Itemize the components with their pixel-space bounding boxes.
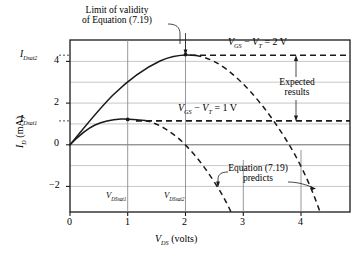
curve-label-vgs-vt-2v: VGS − VT = 2 V: [228, 37, 287, 48]
expected-line-1: Expected: [279, 77, 314, 87]
x-axis-title: VDS (volts): [155, 234, 197, 245]
y-title-unit: (mA): [14, 116, 25, 140]
x-tick-label-2: 2: [182, 217, 187, 228]
vdssat2-sub: DSsat2: [169, 196, 184, 202]
y-tick-label-0: 0: [54, 138, 59, 149]
limit-line-2: of Equation (7.19): [82, 15, 152, 25]
limit-line-1: Limit of validity: [86, 5, 149, 15]
vgs-2v-dash: −: [242, 36, 253, 47]
y-tick-label-2: 2: [54, 97, 59, 108]
y-marker-idsat2: IDsat2: [20, 50, 37, 60]
annotation-equation-predicts: Equation (7.19) predicts: [226, 164, 290, 184]
vgs-1v-dash: −: [192, 102, 203, 113]
x-tick-label-3: 3: [240, 217, 245, 228]
predicts-line-1: Equation (7.19): [228, 163, 288, 173]
vgs-1v-eq: = 1 V: [212, 102, 237, 113]
x-title-sub: DS: [161, 239, 169, 246]
x-title-unit: (volts): [169, 233, 198, 244]
y-title-sub: D: [20, 140, 27, 144]
curve-1v-dashed-parabola: [145, 121, 231, 213]
curve-2v-triode: [70, 55, 196, 145]
x-tick-2-text: 2: [182, 216, 187, 227]
y-tick-2-text: 2: [54, 96, 59, 107]
x-tick-label-0: 0: [67, 217, 72, 228]
saturation-point-1: [126, 118, 130, 122]
y-tick-label-minus2: −2: [49, 180, 60, 191]
y-tick-minus2-text: −2: [49, 179, 60, 190]
curve-1v-solid: [70, 112, 128, 145]
x-tick-label-1: 1: [125, 217, 130, 228]
annotation-limit-of-validity: Limit of validity of Equation (7.19): [62, 6, 172, 26]
y-tick-label-4: 4: [54, 55, 59, 66]
x-tick-4-text: 4: [298, 216, 303, 227]
x-tick-0-text: 0: [67, 216, 72, 227]
vgs-2v-sub1: GS: [234, 42, 242, 49]
vdssat1-sub: DSsat1: [111, 196, 126, 202]
y-title-main: I: [14, 145, 25, 148]
x-tick-label-4: 4: [298, 217, 303, 228]
y-axis-title: ID (mA): [14, 116, 25, 148]
x-marker-vdssat1: VDSsat1: [106, 191, 126, 200]
y-tick-0-text: 0: [54, 137, 59, 148]
curve-label-vgs-vt-1v: VGS − VT = 1 V: [178, 103, 237, 114]
vgs-1v-sub1: GS: [184, 108, 192, 115]
chart-figure: Limit of validity of Equation (7.19) Exp…: [0, 0, 363, 255]
expected-line-2: results: [285, 87, 310, 97]
predicts-line-2: predicts: [243, 173, 273, 183]
x-marker-vdssat2: VDSsat2: [164, 191, 184, 200]
x-tick-1-text: 1: [125, 216, 130, 227]
limit-of-validity-leaders: [168, 24, 186, 52]
vgs-2v-eq: = 2 V: [262, 36, 287, 47]
idsat2-sub: Dsat2: [23, 55, 37, 61]
idsat-leader-dashes: [59, 55, 70, 121]
y-tick-4-text: 4: [54, 54, 59, 65]
idsat1-sub: Dsat1: [23, 120, 37, 126]
x-tick-3-text: 3: [240, 216, 245, 227]
annotation-expected-results: Expected results: [274, 78, 320, 98]
